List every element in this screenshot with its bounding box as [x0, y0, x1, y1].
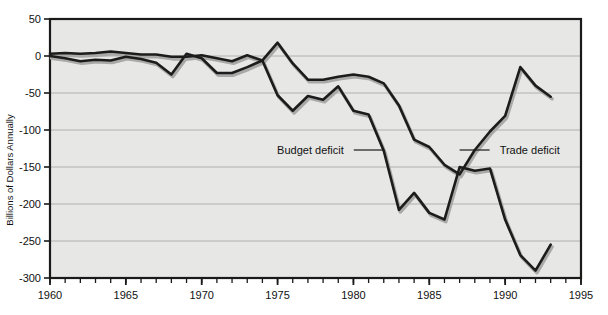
y-axis-tick-label: 0: [35, 50, 41, 62]
chart-canvas: 500-50-100-150-200-250-300 1960196519701…: [0, 0, 608, 315]
y-axis-tick-label: -150: [19, 161, 41, 173]
y-axis-tick-label: -300: [19, 272, 41, 284]
y-axis-tick-label: 50: [29, 13, 41, 25]
x-axis-tick-label: 1975: [265, 289, 289, 301]
annotation-label: Budget deficit: [277, 144, 344, 156]
y-axis-tick-label: -200: [19, 198, 41, 210]
y-axis-title-group: Billions of Dollars Annually: [4, 114, 15, 226]
annotation-label: Trade deficit: [500, 144, 560, 156]
y-axis-title: Billions of Dollars Annually: [4, 114, 15, 226]
x-axis-tick-label: 1995: [569, 289, 593, 301]
y-axis-tick-label: -250: [19, 235, 41, 247]
x-axis-tick-label: 1985: [417, 289, 441, 301]
y-axis-tick-labels-group: 500-50-100-150-200-250-300: [19, 13, 41, 284]
x-axis-tick-labels-group: 19601965197019751980198519901995: [38, 289, 593, 301]
y-axis-tick-label: -50: [25, 87, 41, 99]
chart-figure: 500-50-100-150-200-250-300 1960196519701…: [0, 0, 608, 315]
x-axis-tick-label: 1960: [38, 289, 62, 301]
x-axis-tick-label: 1980: [341, 289, 365, 301]
x-axis-tick-label: 1965: [114, 289, 138, 301]
x-axis-tick-label: 1970: [189, 289, 213, 301]
y-axis-tick-label: -100: [19, 124, 41, 136]
x-axis-tick-label: 1990: [493, 289, 517, 301]
